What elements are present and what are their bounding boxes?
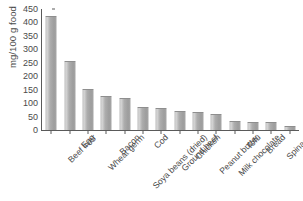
bar xyxy=(101,96,112,130)
bar xyxy=(174,111,185,130)
bar xyxy=(137,107,148,130)
bar-slot xyxy=(115,9,133,130)
x-tick-label: Spinach xyxy=(286,133,303,161)
bar xyxy=(229,121,240,130)
bar xyxy=(193,112,204,130)
bar-chart-figure: mg/100 g food 05010015020025030035040045… xyxy=(0,0,303,201)
bar-slot xyxy=(60,9,78,130)
bar-slot xyxy=(281,9,299,130)
y-tick-label: 100 xyxy=(23,99,38,108)
x-axis-tick-labels: Beef liverEggWheat germBaconSoya beans (… xyxy=(42,133,299,199)
y-tick-label: 0 xyxy=(33,126,38,135)
bar-slot xyxy=(152,9,170,130)
bar-slot xyxy=(189,9,207,130)
bar xyxy=(119,98,130,130)
y-axis-tick-labels: 050100150200250300350400450 xyxy=(14,9,38,130)
y-tick-label: 300 xyxy=(23,45,38,54)
y-tick-label: 250 xyxy=(23,58,38,67)
y-tick-label: 150 xyxy=(23,85,38,94)
bar-slot xyxy=(97,9,115,130)
x-tick-label: Cod xyxy=(153,133,170,150)
bar-slot xyxy=(226,9,244,130)
bar-slot xyxy=(134,9,152,130)
bar xyxy=(82,89,93,130)
bar-slot xyxy=(262,9,280,130)
bar xyxy=(248,122,259,130)
bar xyxy=(46,16,57,130)
bar xyxy=(64,61,75,130)
bar xyxy=(211,114,222,130)
bar-slot xyxy=(207,9,225,130)
y-tick-label: 50 xyxy=(28,112,38,121)
y-tick-label: 350 xyxy=(23,31,38,40)
bar-slot xyxy=(42,9,60,130)
x-axis-line xyxy=(41,130,299,131)
y-tick-label: 200 xyxy=(23,72,38,81)
bar-slot xyxy=(171,9,189,130)
y-tick-label: 400 xyxy=(23,18,38,27)
bar-slot xyxy=(79,9,97,130)
bar xyxy=(156,108,167,130)
bar-slot xyxy=(244,9,262,130)
x-tick-label: Bread xyxy=(265,133,287,155)
y-tick-label: 450 xyxy=(23,5,38,14)
plot-area xyxy=(42,9,299,130)
bar xyxy=(266,122,277,130)
